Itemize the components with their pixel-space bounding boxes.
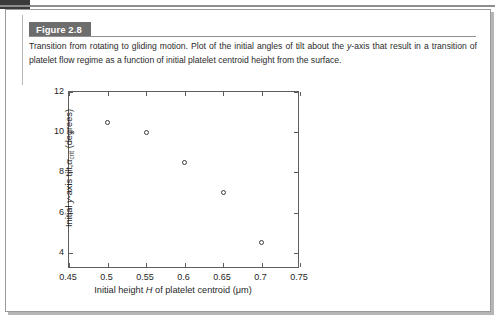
y-tick-right <box>294 92 298 93</box>
y-axis-title-alpha: α <box>64 159 74 164</box>
y-axis-title: Initial y-axis tilt,αcrit (degrees) <box>64 73 74 263</box>
y-tick-label: 6 <box>34 207 64 217</box>
x-tick-label: 0.65 <box>213 272 231 282</box>
x-tick-label: 0.5 <box>100 272 113 282</box>
y-tick-right <box>294 253 298 254</box>
x-tick-label: 0.75 <box>290 272 308 282</box>
figure-label: Figure 2.8 <box>29 22 91 36</box>
x-tick <box>108 263 109 267</box>
x-axis-title-pre: Initial height <box>94 285 146 295</box>
y-tick-label: 12 <box>34 86 64 96</box>
x-tick <box>300 263 301 267</box>
y-axis-title-mid: -axis tilt, <box>64 165 74 199</box>
gutter-rule <box>22 15 23 85</box>
x-tick-top <box>300 92 301 96</box>
plot-area <box>68 91 299 268</box>
data-point <box>221 190 226 195</box>
caption-text-part2: -axis that result in a transition of <box>351 41 477 51</box>
y-tick-right <box>294 132 298 133</box>
x-tick-label: 0.7 <box>254 272 267 282</box>
x-tick-label: 0.6 <box>177 272 190 282</box>
scanned-page: Figure 2.8 Transition from rotating to g… <box>0 0 499 324</box>
figure-caption: Transition from rotating to gliding moti… <box>29 40 477 67</box>
x-tick-top <box>262 92 263 96</box>
y-tick-right <box>294 213 298 214</box>
scan-artifact-rule <box>0 5 495 7</box>
caption-text-part1: Transition from rotating to gliding moti… <box>29 41 347 51</box>
x-tick-label: 0.45 <box>59 272 77 282</box>
x-tick-top <box>146 92 147 96</box>
y-tick-label: 8 <box>34 166 64 176</box>
x-tick <box>185 263 186 267</box>
y-tick-label: 4 <box>34 247 64 257</box>
figure-label-rule <box>29 36 476 37</box>
y-tick-label: 10 <box>34 126 64 136</box>
x-tick <box>223 263 224 267</box>
x-tick-label: 0.55 <box>136 272 154 282</box>
y-axis-title-pre: Initial <box>64 203 74 227</box>
x-tick <box>69 263 70 267</box>
data-point <box>105 120 110 125</box>
x-tick <box>262 263 263 267</box>
page-shadow-bottom <box>8 312 494 315</box>
x-tick <box>146 263 147 267</box>
y-axis-title-post: (degrees) <box>64 109 74 151</box>
y-axis-title-italic: y <box>64 198 74 203</box>
page-shadow-right <box>491 12 494 315</box>
data-point <box>259 240 264 245</box>
x-tick-top <box>223 92 224 96</box>
page-sheet: Figure 2.8 Transition from rotating to g… <box>5 9 491 312</box>
data-point <box>182 160 187 165</box>
x-tick-top <box>108 92 109 96</box>
scatter-chart: Initial height H of platelet centroid (μ… <box>23 85 323 301</box>
x-tick-top <box>185 92 186 96</box>
y-tick-right <box>294 172 298 173</box>
caption-text-part3: platelet flow regime as a function of in… <box>29 55 341 65</box>
y-axis-title-subscript: crit <box>68 151 75 160</box>
x-axis-title: Initial height H of platelet centroid (μ… <box>23 285 323 295</box>
data-point <box>144 130 149 135</box>
x-axis-title-post: of platelet centroid (μm) <box>152 285 251 295</box>
